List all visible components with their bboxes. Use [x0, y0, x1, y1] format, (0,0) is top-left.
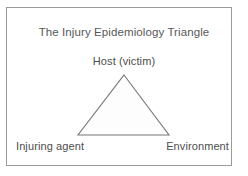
triangle-shape — [78, 75, 169, 135]
triangle-vertex-label-environment: Environment — [166, 140, 229, 152]
injury-epidemiology-triangle-figure: The Injury Epidemiology Triangle Host (v… — [0, 0, 248, 176]
triangle-vertex-label-injuring-agent: Injuring agent — [16, 140, 84, 152]
